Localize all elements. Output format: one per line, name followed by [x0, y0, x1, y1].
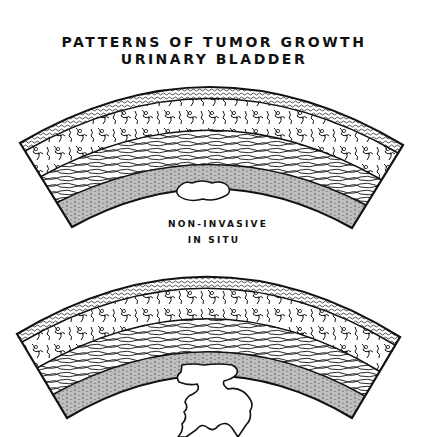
- panel1-label-line1: NON-INVASIVE: [4, 219, 428, 229]
- panel-non-invasive: [20, 87, 403, 228]
- panel-invasive: [17, 277, 400, 437]
- panel1-label-line2: IN SITU: [0, 235, 428, 245]
- in-situ-tumor: [177, 181, 230, 200]
